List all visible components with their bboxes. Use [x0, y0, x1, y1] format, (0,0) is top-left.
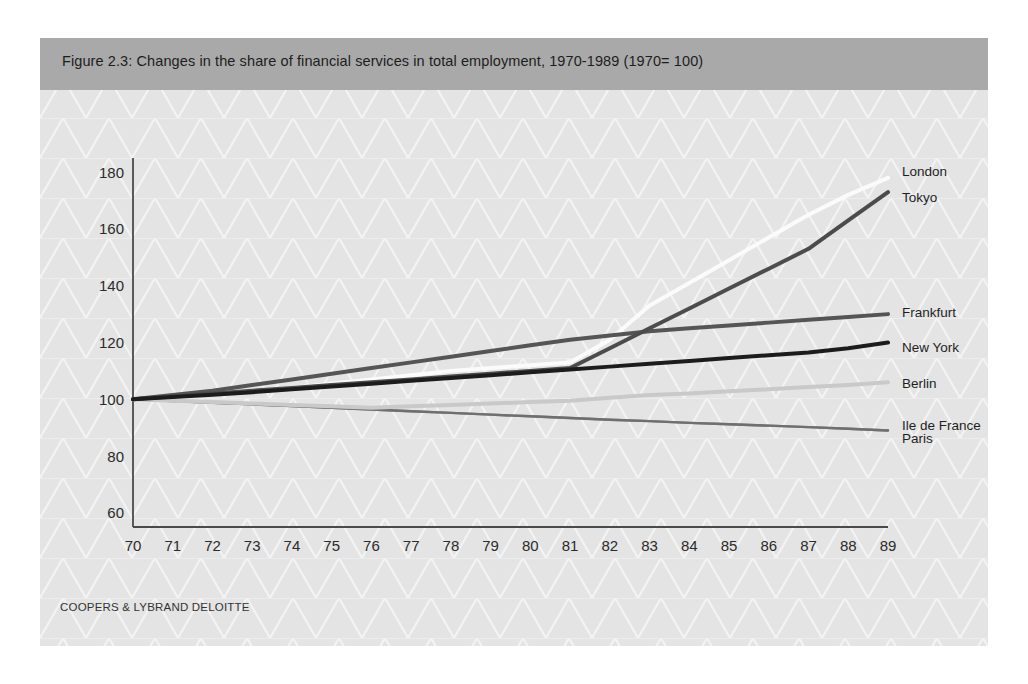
y-axis-tick-label: 140	[99, 277, 124, 294]
x-axis-tick-label: 80	[522, 537, 539, 554]
series-line-london	[133, 178, 888, 399]
x-axis-tick-label: 73	[244, 537, 261, 554]
x-axis-tick-label: 71	[164, 537, 181, 554]
series-label-paris: Paris	[902, 431, 933, 446]
x-axis-tick-label: 77	[403, 537, 420, 554]
series-label-new-york: New York	[902, 340, 959, 355]
source-note: COOPERS & LYBRAND DELOITTE	[60, 601, 250, 613]
x-axis-tick-label: 78	[443, 537, 460, 554]
x-axis-tick-label: 70	[125, 537, 142, 554]
figure-frame: Figure 2.3: Changes in the share of fina…	[40, 38, 988, 646]
x-axis-tick-labels: 7071727374757677787980818283848586878889	[125, 537, 897, 554]
x-axis-tick-label: 82	[601, 537, 618, 554]
x-axis-tick-label: 87	[800, 537, 817, 554]
x-axis-tick-label: 86	[760, 537, 777, 554]
x-axis-tick-label: 74	[284, 537, 301, 554]
series-lines-group	[133, 178, 888, 431]
x-axis-tick-label: 79	[482, 537, 499, 554]
x-axis-tick-label: 88	[840, 537, 857, 554]
figure-container: Figure 2.3: Changes in the share of fina…	[0, 0, 1028, 684]
x-axis-tick-label: 81	[562, 537, 579, 554]
x-axis-tick-label: 83	[641, 537, 658, 554]
series-label-frankfurt: Frankfurt	[902, 305, 956, 320]
y-axis-tick-label: 120	[99, 334, 124, 351]
y-axis-tick-label: 60	[107, 504, 124, 521]
y-axis-tick-label: 180	[99, 164, 124, 181]
y-axis-tick-labels: 6080100120140160180	[99, 164, 124, 522]
series-label-berlin: Berlin	[902, 376, 937, 391]
y-axis-tick-label: 80	[107, 448, 124, 465]
y-axis-tick-label: 160	[99, 220, 124, 237]
series-label-london: London	[902, 164, 947, 179]
x-axis-tick-label: 89	[880, 537, 897, 554]
line-chart-plot: 6080100120140160180 70717273747576777879…	[40, 38, 988, 646]
x-axis-tick-label: 84	[681, 537, 698, 554]
x-axis-tick-label: 76	[363, 537, 380, 554]
y-axis-tick-label: 100	[99, 391, 124, 408]
x-axis-tick-label: 85	[721, 537, 738, 554]
x-axis-tick-label: 75	[323, 537, 340, 554]
series-labels-group: LondonTokyoFrankfurtNew YorkBerlinIle de…	[902, 164, 981, 446]
x-axis-tick-label: 72	[204, 537, 221, 554]
series-label-tokyo: Tokyo	[902, 190, 937, 205]
